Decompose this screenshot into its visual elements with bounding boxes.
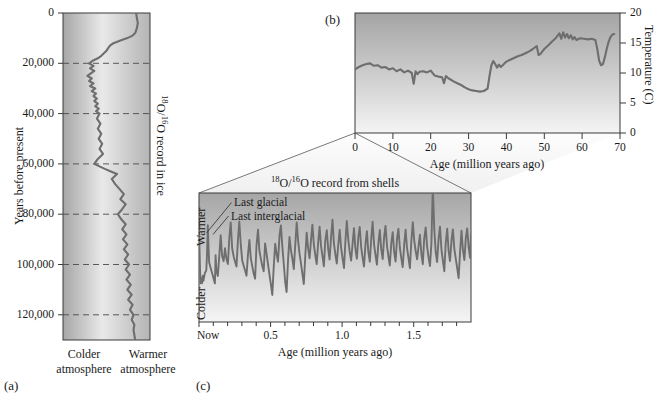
panel-b-ytick-5: 5 [630, 97, 636, 109]
figure-svg [0, 0, 662, 398]
panel-a-plot [58, 13, 150, 340]
panel-a-ytick-80000: 80,000 [22, 208, 54, 220]
panel-c-warmer-label: Warmer [195, 208, 207, 246]
panel-c-xtick-1.5: 1.5 [407, 330, 421, 342]
panel-a-ytick-0: 0 [48, 7, 54, 19]
panel-c-xtick-now: Now [197, 330, 219, 342]
panel-b-yticks [620, 13, 626, 133]
panel-a-y-axis-title: Years before present [13, 127, 25, 225]
panel-a-tail: O record in ice [154, 124, 168, 196]
panel-b-xtick-70: 70 [614, 142, 626, 154]
panel-c-sup-18: 18 [271, 174, 280, 184]
panel-a-yticks [58, 13, 63, 315]
panel-b-y-axis-title-text: Temperature (C) [642, 25, 656, 104]
panel-a-warmer-label-line2: atmosphere [120, 363, 175, 375]
panel-b-xtick-30: 30 [463, 142, 475, 154]
panel-a-colder-label-line2: atmosphere [56, 363, 111, 375]
panel-c-x-axis-title: Age (million years ago) [278, 346, 392, 358]
panel-c-xticks [199, 322, 457, 327]
panel-a-ytick-60000: 60,000 [22, 158, 54, 170]
panel-b-xtick-0: 0 [352, 142, 358, 154]
panel-c-title: 18O/16O record from shells [271, 175, 399, 189]
panel-b-xtick-20: 20 [425, 142, 437, 154]
panel-b-xtick-10: 10 [387, 142, 399, 154]
panel-a-ytick-100000: 100,000 [17, 259, 54, 271]
panel-a-colder-label-line1: Colder [68, 348, 101, 360]
panel-c-annotation-last-glacial: Last glacial [234, 197, 287, 209]
panel-a-right-axis-title: 18O/16O record in ice [155, 95, 169, 196]
panel-b-ytick-10: 10 [630, 67, 642, 79]
panel-c-colder-label: Colder [195, 287, 207, 320]
panel-c-label: (c) [196, 379, 210, 392]
panel-b-label: (b) [325, 13, 340, 26]
panel-c-annotation-last-interglacial: Last interglacial [231, 211, 305, 223]
panel-b-xtick-60: 60 [576, 142, 588, 154]
panel-b-ytick-0: 0 [630, 127, 636, 139]
panel-c-title-tail: O record from shells [300, 176, 399, 190]
panel-c-xtick-1.0: 1.0 [335, 330, 349, 342]
panel-c-mid-o: O/ [280, 176, 292, 190]
panel-a-ytick-120000: 120,000 [17, 309, 54, 321]
panel-c-xtick-0.5: 0.5 [263, 330, 277, 342]
panel-b-xtick-50: 50 [539, 142, 551, 154]
panel-a-ytick-20000: 20,000 [22, 58, 54, 70]
panel-c-sup-16: 16 [292, 174, 301, 184]
panel-a-sup-18: 18 [160, 95, 170, 104]
panel-b-plot [355, 13, 626, 139]
panel-a-mid-o: O/ [154, 104, 168, 116]
panel-b-ytick-15: 15 [630, 37, 642, 49]
panel-b-y-axis-title: Temperature (C) [643, 25, 655, 104]
panel-b-xtick-40: 40 [501, 142, 513, 154]
panel-a-label: (a) [4, 379, 18, 392]
panel-a-warmer-label-line1: Warmer [129, 348, 167, 360]
panel-a-ytick-40000: 40,000 [22, 108, 54, 120]
figure-container: 0 20,000 40,000 60,000 80,000 100,000 12… [0, 0, 662, 398]
panel-b-ytick-20: 20 [630, 7, 642, 19]
panel-a-sup-16: 16 [160, 116, 170, 125]
panel-b-x-axis-title: Age (million years ago) [430, 158, 544, 170]
zoom-connector-wedge [199, 133, 620, 193]
